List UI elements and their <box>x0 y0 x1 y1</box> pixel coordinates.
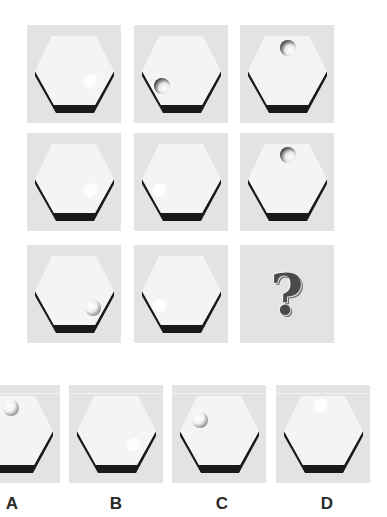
faint-ball-icon <box>314 399 329 414</box>
faint-ball-icon <box>153 299 168 314</box>
grid-cell-r2c2 <box>134 133 228 231</box>
hexagon-icon <box>172 385 266 483</box>
hexagon-icon <box>134 133 228 231</box>
hole-icon <box>154 78 170 94</box>
grid-cell-r3c3: ? <box>240 245 334 343</box>
hexagon-icon <box>27 133 121 231</box>
hexagon-icon <box>240 25 334 123</box>
hexagon-icon <box>27 25 121 123</box>
hexagon-icon <box>0 385 60 483</box>
option-b-panel[interactable] <box>69 385 163 483</box>
ball-icon <box>192 412 208 428</box>
faint-ball-icon <box>84 184 99 199</box>
faint-ball-icon <box>153 184 168 199</box>
option-b-label: B <box>106 494 126 514</box>
grid-cell-r1c1 <box>27 25 121 123</box>
ball-icon <box>85 300 101 316</box>
option-d-label: D <box>317 494 337 514</box>
faint-ball-icon <box>127 438 142 453</box>
hexagon-icon <box>240 133 334 231</box>
hexagon-icon <box>276 385 370 483</box>
option-d-panel[interactable] <box>276 385 370 483</box>
hexagon-icon <box>134 245 228 343</box>
option-a-panel[interactable] <box>0 385 60 483</box>
grid-cell-r1c2 <box>134 25 228 123</box>
hole-icon <box>280 40 296 56</box>
grid-cell-r3c2 <box>134 245 228 343</box>
hole-icon <box>280 147 296 163</box>
question-mark-icon: ? <box>240 245 334 343</box>
option-a-label: A <box>2 494 22 514</box>
option-c-label: C <box>212 494 232 514</box>
grid-cell-r2c3 <box>240 133 334 231</box>
grid-cell-r3c1 <box>27 245 121 343</box>
grid-cell-r1c3 <box>240 25 334 123</box>
grid-cell-r2c1 <box>27 133 121 231</box>
hexagon-icon <box>134 25 228 123</box>
hexagon-icon <box>27 245 121 343</box>
faint-ball-icon <box>84 75 99 90</box>
hexagon-icon <box>69 385 163 483</box>
option-c-panel[interactable] <box>172 385 266 483</box>
ball-icon <box>3 400 19 416</box>
